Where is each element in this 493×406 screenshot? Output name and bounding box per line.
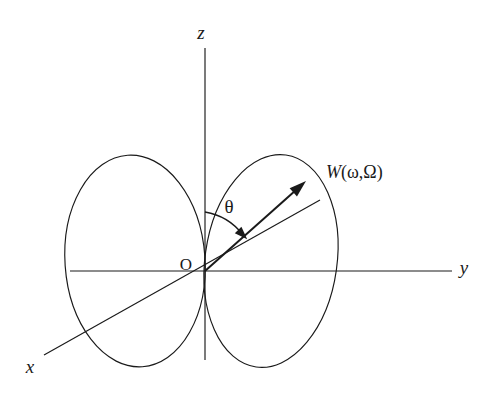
vector-arg-omega-lower: ω <box>347 162 359 182</box>
axes-group <box>44 48 452 360</box>
dipole-radiation-diagram: z y x O θ W(ω,Ω) <box>0 0 493 406</box>
radiation-vector-group <box>205 181 306 271</box>
x-axis-label: x <box>25 356 35 377</box>
radiation-vector-shaft <box>205 190 296 271</box>
vector-arg-omega-upper: Ω <box>363 162 376 182</box>
vector-close-paren: ) <box>377 162 383 183</box>
y-axis-label: y <box>458 257 469 278</box>
diagram-canvas: z y x O θ W(ω,Ω) <box>0 0 493 406</box>
x-axis-line <box>44 200 320 355</box>
origin-label: O <box>180 255 192 274</box>
labels-group: z y x O θ W(ω,Ω) <box>25 22 469 377</box>
z-axis-label: z <box>196 22 205 43</box>
radiation-vector-label: W(ω,Ω) <box>326 162 383 183</box>
theta-angle-label: θ <box>224 196 233 217</box>
